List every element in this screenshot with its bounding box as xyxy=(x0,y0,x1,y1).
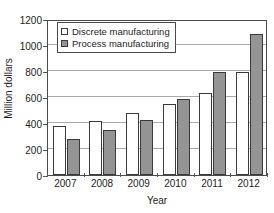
x-axis-tick-label: 2012 xyxy=(238,178,260,189)
bar-discrete-2011[interactable] xyxy=(199,93,212,175)
x-axis-tick-mark xyxy=(47,173,48,177)
x-axis-tick-mark xyxy=(157,173,158,177)
bar-process-2010[interactable] xyxy=(177,99,190,175)
bar-discrete-2009[interactable] xyxy=(126,113,139,175)
x-axis-tick-label: 2007 xyxy=(54,178,76,189)
x-axis-tick-mark xyxy=(195,171,196,175)
x-axis-tick-mark xyxy=(194,173,195,177)
legend-swatch-discrete-icon xyxy=(61,28,68,35)
bar-process-2012[interactable] xyxy=(250,34,263,175)
y-axis-tick-label: 200 xyxy=(25,145,42,156)
y-axis-tick-label: 1000 xyxy=(20,41,42,52)
y-axis-tick-labels: 020040060080010001200 xyxy=(14,14,44,176)
x-axis-tick-label: 2011 xyxy=(201,178,223,189)
x-axis-tick-mark xyxy=(120,173,121,177)
legend-swatch-process-icon xyxy=(61,40,68,47)
y-axis-tick-label: 600 xyxy=(25,93,42,104)
bar-process-2008[interactable] xyxy=(103,130,116,175)
x-axis-tick-mark xyxy=(158,171,159,175)
bar-process-2007[interactable] xyxy=(67,139,80,175)
bar-group xyxy=(231,21,267,175)
x-axis-tick-mark xyxy=(267,173,268,177)
bar-process-2011[interactable] xyxy=(213,72,226,175)
legend-item-label: Discrete manufacturing xyxy=(72,26,170,37)
bar-chart: Million dollars 020040060080010001200 20… xyxy=(0,0,274,213)
bar-discrete-2010[interactable] xyxy=(163,104,176,176)
y-axis-tick-label: 0 xyxy=(36,171,42,182)
y-axis-tick-label: 400 xyxy=(25,119,42,130)
x-axis-tick-mark xyxy=(230,173,231,177)
y-axis-tick-label: 1200 xyxy=(20,15,42,26)
bar-process-2009[interactable] xyxy=(140,120,153,175)
x-axis-tick-mark xyxy=(84,173,85,177)
x-axis-tick-mark xyxy=(121,171,122,175)
x-axis-tick-labels: 200720082009201020112012 xyxy=(47,178,267,192)
x-axis-tick-label: 2008 xyxy=(91,178,113,189)
y-axis-tick-label: 800 xyxy=(25,67,42,78)
legend-item[interactable]: Discrete manufacturing xyxy=(61,25,170,37)
x-axis-tick-mark xyxy=(85,171,86,175)
legend-item[interactable]: Process manufacturing xyxy=(61,37,170,49)
bar-discrete-2012[interactable] xyxy=(236,72,249,175)
x-axis-tick-mark xyxy=(231,171,232,175)
x-axis-title: Year xyxy=(47,195,267,206)
bar-group xyxy=(195,21,232,175)
x-axis-tick-label: 2009 xyxy=(128,178,150,189)
x-axis-tick-label: 2010 xyxy=(164,178,186,189)
bar-discrete-2007[interactable] xyxy=(53,126,66,175)
legend-item-label: Process manufacturing xyxy=(72,38,169,49)
legend: Discrete manufacturingProcess manufactur… xyxy=(57,22,176,53)
bar-discrete-2008[interactable] xyxy=(89,121,102,175)
y-axis-title-text: Million dollars xyxy=(3,58,14,119)
